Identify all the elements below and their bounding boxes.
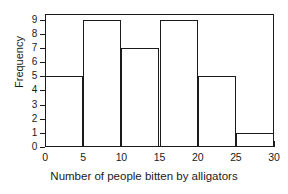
y-axis-tick-label: 9	[25, 15, 37, 25]
y-axis-tick	[40, 34, 45, 35]
x-axis-tick-label: 15	[148, 152, 172, 163]
x-axis-tick	[121, 141, 122, 147]
y-axis-tick	[40, 147, 45, 148]
y-axis-tick-label: 0	[25, 142, 37, 152]
x-axis-tick-label: 30	[262, 152, 286, 163]
histogram-bar	[45, 76, 83, 147]
x-axis-tick-label: 0	[33, 152, 57, 163]
y-axis-tick	[40, 119, 45, 120]
y-axis-tick-label: 8	[25, 29, 37, 39]
y-axis-tick-label: 4	[25, 85, 37, 95]
x-axis-tick-label: 25	[224, 152, 248, 163]
y-axis-tick	[40, 90, 45, 91]
x-axis-tick	[198, 141, 199, 147]
y-axis-tick-label: 1	[25, 128, 37, 138]
y-axis-tick-label: 2	[25, 114, 37, 124]
y-axis-tick-label: 3	[25, 100, 37, 110]
y-axis-tick-label: 5	[25, 71, 37, 81]
histogram-bar	[198, 76, 236, 147]
y-axis-tick	[40, 62, 45, 63]
histogram-bar	[236, 133, 274, 147]
x-axis-tick	[160, 141, 161, 147]
y-axis-tick-label: 6	[25, 57, 37, 67]
y-axis-title: Frequency	[13, 7, 25, 117]
x-axis-tick-label: 5	[71, 152, 95, 163]
x-axis-tick	[83, 141, 84, 147]
y-axis-tick	[40, 48, 45, 49]
y-axis-tick-label: 7	[25, 43, 37, 53]
histogram-bar	[160, 20, 198, 147]
x-axis-tick-label: 20	[186, 152, 210, 163]
y-axis-tick	[40, 133, 45, 134]
bars-layer	[45, 14, 274, 147]
y-axis-tick	[40, 20, 45, 21]
x-axis-tick-label: 10	[109, 152, 133, 163]
y-axis-tick	[40, 105, 45, 106]
histogram-bar	[83, 20, 121, 147]
histogram-chart: 0123456789 051015202530 Frequency Number…	[0, 0, 288, 194]
x-axis-tick	[45, 141, 46, 147]
x-axis-tick	[274, 141, 275, 147]
x-axis-title: Number of people bitten by alligators	[0, 170, 288, 183]
x-axis-tick	[236, 141, 237, 147]
y-axis-tick	[40, 76, 45, 77]
histogram-bar	[121, 48, 159, 147]
